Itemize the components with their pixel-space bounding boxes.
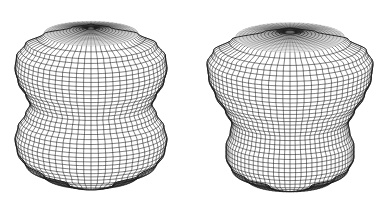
left-wireframe-surface — [15, 21, 167, 190]
right-wireframe-surface — [207, 23, 373, 192]
figure-canvas — [0, 0, 381, 202]
wireframe-figure — [0, 0, 381, 202]
